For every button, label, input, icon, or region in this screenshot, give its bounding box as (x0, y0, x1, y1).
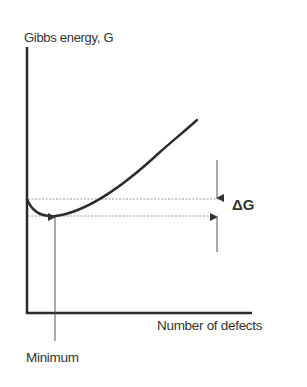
delta-g-label: ΔG (232, 196, 254, 213)
x-axis-label: Number of defects (157, 318, 262, 333)
y-axis-label: Gibbs energy, G (24, 30, 113, 45)
gibbs-energy-curve (27, 120, 197, 216)
minimum-label: Minimum (26, 350, 79, 365)
